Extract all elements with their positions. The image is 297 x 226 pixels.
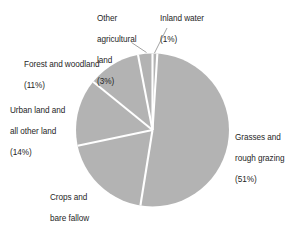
slice-label-line2: bare fallow	[50, 214, 89, 223]
slice-label-line1: Other	[97, 14, 117, 23]
slice-label-line1: Inland water	[160, 14, 204, 23]
slice-label-line1: Forest and woodland	[24, 60, 100, 69]
slice-label-percent: (1%)	[160, 35, 230, 45]
slice-label-percent: (51%)	[235, 175, 297, 185]
pie-chart: Other agricultural land (3%) Inland wate…	[0, 0, 297, 226]
slice-label-grasses-and-rough-grazing: Grasses and rough grazing (51%)	[235, 123, 297, 196]
slice-label-line2: agricultural	[97, 35, 136, 44]
slice-label-line1: Urban land and	[10, 106, 65, 115]
slice-label-urban-land-and-all-other-land: Urban land and all other land (14%)	[10, 96, 90, 169]
slice-label-line1: Crops and	[50, 193, 87, 202]
slice-label-line2: rough grazing	[235, 154, 284, 163]
slice-label-line1: Grasses and	[235, 133, 281, 142]
slice-label-percent: (11%)	[24, 81, 116, 91]
slice-label-forest-and-woodland: Forest and woodland (11%)	[24, 50, 116, 102]
slice-label-crops-and-bare-fallow: Crops and bare fallow (19%)	[50, 183, 120, 226]
slice-label-inland-water: Inland water (1%)	[160, 4, 230, 56]
slice-label-percent: (14%)	[10, 148, 90, 158]
slice-label-line2: all other land	[10, 127, 56, 136]
